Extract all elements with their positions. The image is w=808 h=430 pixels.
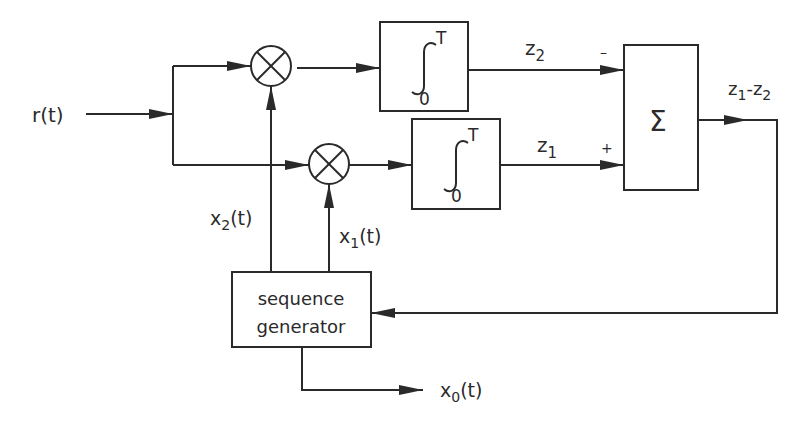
x0-label: x0(t)	[440, 379, 482, 405]
x1-label: x1(t)	[339, 225, 381, 251]
int-top-upper-limit: T	[435, 28, 447, 48]
integral-bottom-icon	[444, 141, 468, 191]
sigma-icon: Σ	[649, 105, 667, 138]
z2-label: z2	[525, 36, 545, 65]
integral-top-icon	[412, 43, 436, 94]
summer-minus-sign: –	[600, 44, 607, 60]
seq-gen-line2: generator	[257, 316, 346, 337]
block-diagram: r(t) T 0 T 0 z2 z1 – + Σ z1-z2 x2(t) x1(…	[0, 0, 808, 430]
int-bottom-upper-limit: T	[467, 125, 479, 145]
multiplier-bottom-icon	[309, 144, 349, 184]
int-bottom-lower-limit: 0	[451, 186, 462, 206]
x0-line	[302, 347, 400, 390]
summer-plus-sign: +	[601, 140, 613, 156]
seq-gen-line1: sequence	[258, 288, 345, 309]
feedback-line	[395, 120, 777, 313]
z1-label: z1	[537, 133, 557, 162]
output-label: z1-z2	[728, 78, 771, 103]
input-label: r(t)	[32, 103, 64, 127]
int-top-lower-limit: 0	[419, 89, 430, 109]
x2-label: x2(t)	[210, 207, 252, 233]
multiplier-top-icon	[251, 46, 291, 86]
